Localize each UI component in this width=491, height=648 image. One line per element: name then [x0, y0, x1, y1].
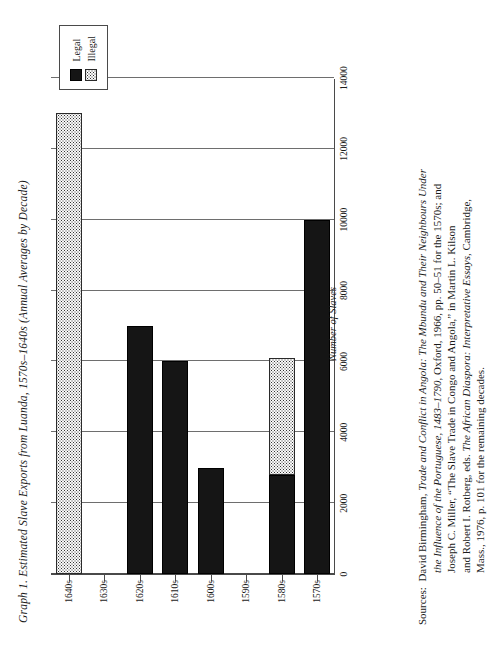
bar-1640s-illegal	[55, 113, 81, 574]
figure-title: Graph 1. Estimated Slave Exports from Lu…	[17, 180, 29, 623]
value-tick-label: 2000	[339, 473, 349, 533]
value-tick-label: 12000	[339, 119, 349, 179]
value-tick-label: 8000	[339, 261, 349, 321]
category-tick-label: 1620s	[134, 580, 144, 624]
category-tick-label: 1600s	[205, 580, 215, 624]
sources-line: Joseph C. Miller, “The Slave Trade in Co…	[444, 19, 459, 625]
sources-line: Mass., 1976, p. 101 for the remaining de…	[473, 19, 488, 625]
sources-italic-title: the Influence of the Portuguese, 1483–17…	[430, 381, 442, 573]
bar-1620s-legal	[126, 326, 152, 574]
bar-1570s-legal	[304, 220, 330, 574]
legend-label-illegal: Illegal	[85, 36, 96, 62]
legend-item-legal: Legal	[70, 36, 82, 81]
chart-legend: Legal Illegal	[59, 25, 108, 90]
bar-1580s-illegal	[268, 358, 294, 475]
category-tick-label: 1570s	[312, 580, 322, 624]
legend-swatch-legal-icon	[70, 69, 82, 81]
value-tick-label: 0	[339, 544, 349, 604]
category-tick-label: 1580s	[276, 580, 286, 624]
sources-block: Sources: David Birmingham, Trade and Con…	[415, 19, 488, 629]
value-tick-label: 14000	[339, 48, 349, 108]
value-tick-label: 6000	[339, 331, 349, 391]
bar-1610s-legal	[162, 361, 188, 574]
rotated-sources-container: Sources: David Birmingham, Trade and Con…	[415, 19, 491, 629]
category-tick-label: 1630s	[99, 580, 109, 624]
sources-line: the Influence of the Portuguese, 1483–17…	[429, 19, 444, 625]
value-tick-label: 10000	[339, 190, 349, 250]
bar-1600s-legal	[197, 468, 223, 574]
gridline	[51, 290, 334, 291]
chart-figure: Graph 1. Estimated Slave Exports from Lu…	[13, 19, 413, 629]
plot-area: 020004000600080001000012000140001570s158…	[51, 79, 335, 575]
category-tick-label: 1610s	[170, 580, 180, 624]
category-tick-label: 1640s	[63, 580, 73, 624]
rotated-figure-container: Graph 1. Estimated Slave Exports from Lu…	[13, 19, 413, 629]
sources-line: Sources: David Birmingham, Trade and Con…	[415, 19, 430, 625]
category-tick-label: 1590s	[241, 580, 251, 624]
gridline	[51, 219, 334, 220]
legend-item-illegal: Illegal	[85, 36, 97, 81]
value-tick-label: 4000	[339, 402, 349, 462]
legend-label-legal: Legal	[70, 39, 81, 62]
sources-line: and Robert I. Rotberg, eds. The African …	[458, 19, 473, 625]
gridline	[51, 148, 334, 149]
bar-1580s-legal	[268, 475, 294, 574]
value-axis-title: Number of Slaves	[327, 19, 338, 629]
sources-italic-title: Trade and Conflict in Angola: The Mbundu…	[416, 169, 428, 491]
sources-lead-label: Sources:	[416, 582, 428, 625]
legend-swatch-illegal-icon	[85, 69, 97, 81]
sources-italic-title: The African Diaspora: Interpretative Ess…	[459, 256, 471, 452]
